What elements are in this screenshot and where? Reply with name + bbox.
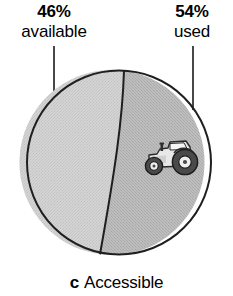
- pie-chart-figure: 46% available 54% used: [0, 0, 233, 296]
- figure-caption: cAccessible: [0, 273, 233, 293]
- figure-caption-text: Accessible: [84, 273, 163, 292]
- pie-chart-canvas: [0, 0, 233, 296]
- figure-caption-letter: c: [70, 273, 79, 292]
